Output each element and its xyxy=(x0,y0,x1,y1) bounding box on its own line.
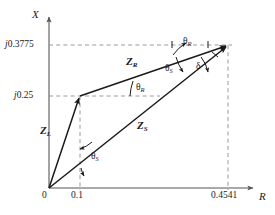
angle-label-theta-r-upper: θR xyxy=(183,37,192,47)
vector-zl xyxy=(49,98,79,188)
angle-theta-r-lower-sub: R xyxy=(141,86,145,93)
angle-theta-s-lower-sub: S xyxy=(96,155,99,162)
vector-label-zr: ZR xyxy=(126,56,137,67)
vector-label-zl: ZL xyxy=(40,125,51,136)
vector-label-zs-base: Z xyxy=(137,119,144,131)
x-tick-label-0: 0 xyxy=(42,191,47,201)
vector-label-zs: ZS xyxy=(137,120,148,131)
dashed-guides xyxy=(49,45,232,190)
arc-theta-s-lower-2 xyxy=(81,168,84,176)
vector-label-zl-sub: L xyxy=(47,130,51,138)
x-axis-label: R xyxy=(259,191,266,202)
angle-label-delta: δ xyxy=(196,62,200,72)
angle-label-theta-s-upper: θS xyxy=(165,64,173,74)
diagram-canvas xyxy=(0,0,275,215)
vector-zr xyxy=(80,46,226,96)
y-axis-label: X xyxy=(32,9,39,20)
x-tick-label-0p1: 0.1 xyxy=(71,191,83,201)
x-tick-label-0p4541: 0.4541 xyxy=(211,191,237,201)
angle-delta-base: δ xyxy=(196,61,200,71)
y-tick-label-j0p3775: j0.3775 xyxy=(5,40,34,50)
arc-theta-r-lower xyxy=(130,81,133,96)
y-tick-value-0p25: 0.25 xyxy=(17,90,34,100)
angle-theta-r-lower-base: θ xyxy=(136,82,141,92)
arc-theta-s-lower xyxy=(80,142,92,149)
vector-label-zr-sub: R xyxy=(133,61,138,69)
vector-label-zs-sub: S xyxy=(144,125,148,133)
angle-theta-s-upper-base: θ xyxy=(165,63,170,73)
vector-label-zr-base: Z xyxy=(126,55,133,67)
angle-theta-s-lower-base: θ xyxy=(91,151,96,161)
phasor-diagram-figure: X R 0 0.1 0.4541 j0.3775 j0.25 ZL ZR ZS … xyxy=(0,0,275,215)
angle-label-theta-s-lower: θS xyxy=(91,152,99,162)
angle-theta-r-upper-base: θ xyxy=(183,36,188,46)
y-tick-label-j0p25: j0.25 xyxy=(14,91,33,101)
vector-label-zl-base: Z xyxy=(40,124,47,136)
angle-label-theta-r-lower: θR xyxy=(136,83,145,93)
y-tick-value-0p3775: 0.3775 xyxy=(8,39,34,49)
arc-theta-s-upper xyxy=(176,57,183,72)
angle-theta-r-upper-sub: R xyxy=(188,40,192,47)
angle-theta-s-upper-sub: S xyxy=(170,67,173,74)
